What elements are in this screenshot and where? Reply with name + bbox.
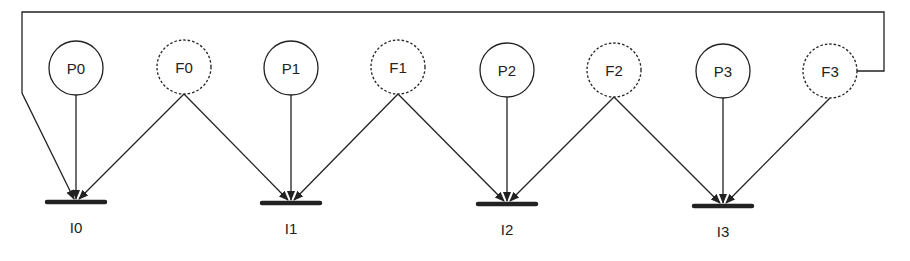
node-P3: P3	[696, 44, 750, 98]
edge-F1-I1	[294, 94, 398, 200]
node-F1: F1	[371, 40, 425, 94]
node-F3: F3	[803, 44, 857, 98]
node-label: P3	[714, 63, 732, 80]
sink-I3: I3	[694, 206, 752, 240]
edge-F3-I3	[726, 98, 830, 203]
node-label: F3	[821, 63, 839, 80]
node-P0: P0	[49, 41, 103, 95]
sink-label: I1	[285, 220, 298, 237]
edges-group	[22, 12, 884, 203]
node-label: F1	[389, 59, 407, 76]
sink-I2: I2	[478, 204, 536, 238]
node-label: P2	[498, 62, 516, 79]
sinks-group: I0I1I2I3	[47, 202, 752, 240]
node-label: F2	[605, 62, 623, 79]
sink-I0: I0	[47, 202, 105, 236]
sink-I1: I1	[262, 203, 320, 237]
node-P2: P2	[480, 43, 534, 97]
node-label: P1	[282, 60, 300, 77]
node-label: F0	[175, 59, 193, 76]
nodes-group: P0F0P1F1P2F2P3F3	[49, 40, 857, 98]
sink-label: I0	[70, 219, 83, 236]
edge-F1-I2	[398, 94, 504, 201]
edge-F2-I2	[510, 97, 614, 201]
node-label: P0	[67, 60, 85, 77]
node-P1: P1	[264, 41, 318, 95]
edge-F2-I3	[614, 97, 720, 203]
edge-F0-I1	[184, 94, 288, 200]
edge-F0-I0	[79, 94, 184, 199]
node-F0: F0	[157, 40, 211, 94]
sink-label: I2	[501, 221, 514, 238]
sink-label: I3	[717, 223, 730, 240]
node-F2: F2	[587, 43, 641, 97]
dependency-diagram: I0I1I2I3 P0F0P1F1P2F2P3F3	[0, 0, 910, 261]
edge-wrap-F3-I0	[22, 12, 884, 199]
